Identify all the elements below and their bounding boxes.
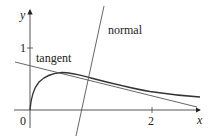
x-tick-label-2: 2 (148, 114, 154, 128)
tangent-label: tangent (36, 51, 72, 65)
tangent-normal-diagram: y x 0 2 1 tangent normal (0, 0, 210, 138)
y-axis-label: y (19, 8, 26, 22)
x-axis-label: x (196, 113, 203, 127)
origin-label: 0 (20, 114, 26, 128)
y-tick-label-1: 1 (20, 41, 26, 55)
normal-line (76, 6, 104, 136)
normal-label: normal (108, 23, 143, 37)
function-curve (30, 73, 200, 111)
tangent-line (15, 62, 197, 107)
